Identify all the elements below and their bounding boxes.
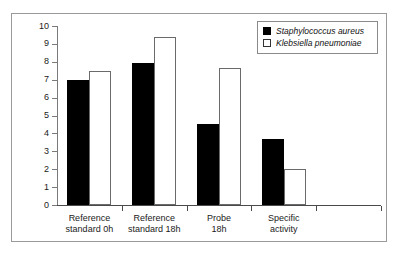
bar-klebsiella-pneumoniae (89, 71, 111, 205)
bar-staphylococcus-aureus (67, 80, 89, 205)
y-tick-label: 0 (9, 201, 49, 210)
x-category-label-line: activity (239, 224, 329, 235)
legend-item: Staphylococcus aureus (263, 25, 372, 37)
x-tick-mark (381, 206, 382, 211)
bar-klebsiella-pneumoniae (154, 37, 176, 205)
bar-klebsiella-pneumoniae (284, 169, 306, 205)
y-tick-label: 4 (9, 129, 49, 138)
x-category-label: Specificactivity (239, 213, 329, 235)
open-square-icon (263, 39, 271, 47)
x-tick-mark (122, 206, 123, 211)
x-tick-mark (251, 206, 252, 211)
y-tick-label: 3 (9, 147, 49, 156)
x-tick-mark (316, 206, 317, 211)
chart-legend: Staphylococcus aureus Klebsiella pneumon… (257, 21, 378, 54)
x-category-label-line: Specific (239, 213, 329, 224)
filled-square-icon (263, 27, 271, 35)
bar-staphylococcus-aureus (132, 63, 154, 205)
legend-item: Klebsiella pneumoniae (263, 37, 372, 49)
y-tick-label: 9 (9, 39, 49, 48)
y-tick-label: 8 (9, 57, 49, 66)
y-tick-label: 6 (9, 93, 49, 102)
x-axis-line (57, 205, 381, 206)
legend-label: Staphylococcus aureus (276, 26, 364, 36)
x-tick-mark (187, 206, 188, 211)
chart-figure: log CFU 012345678910 Referencestandard 0… (0, 0, 401, 256)
y-tick-label: 5 (9, 111, 49, 120)
legend-label: Klebsiella pneumoniae (276, 38, 362, 48)
bar-klebsiella-pneumoniae (219, 68, 241, 205)
y-tick-label: 2 (9, 165, 49, 174)
bar-staphylococcus-aureus (262, 139, 284, 205)
y-tick-mark (52, 205, 57, 206)
y-tick-label: 10 (9, 22, 49, 31)
y-tick-label: 7 (9, 75, 49, 84)
bar-staphylococcus-aureus (197, 124, 219, 205)
y-tick-label: 1 (9, 183, 49, 192)
